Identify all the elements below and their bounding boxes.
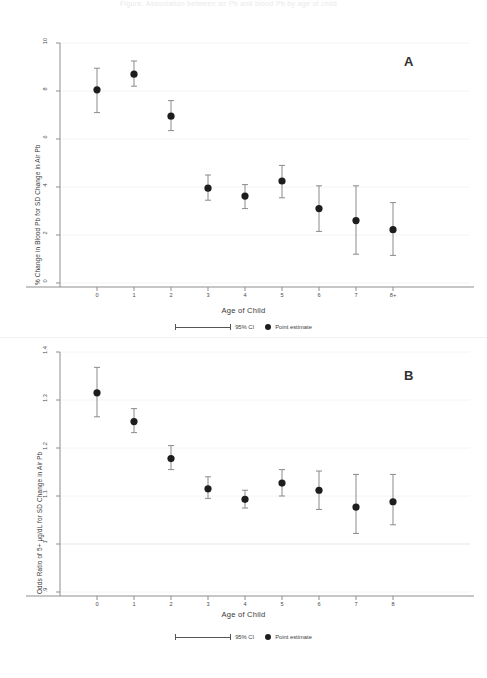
x-tick-label: 7: [344, 292, 368, 298]
filled-circle-icon: [265, 634, 271, 640]
point-estimate-marker: [315, 205, 322, 212]
x-tick-label: 2: [159, 601, 183, 607]
x-tick-label: 3: [196, 292, 220, 298]
data-point-group: [352, 474, 359, 533]
point-estimate-marker: [93, 86, 100, 93]
panel-a-plot: [0, 0, 487, 340]
x-tick-label: 4: [233, 292, 257, 298]
y-tick-label: 1.1: [42, 487, 48, 501]
y-tick-label: 1.3: [42, 391, 48, 405]
data-point-group: [389, 203, 396, 256]
legend-label-point: Point estimate: [275, 324, 312, 330]
panel-b-y-axis-title: Odds Ratio of 5+ µg/dL for SD Change in …: [36, 452, 43, 594]
data-point-group: [315, 471, 322, 509]
error-bar-icon: [175, 634, 231, 641]
y-tick-label: 0: [42, 274, 48, 288]
y-tick-label: .9: [42, 583, 48, 597]
data-point-group: [352, 186, 359, 254]
panel-b-x-axis-title: Age of Child: [0, 610, 487, 619]
data-point-group: [241, 490, 248, 508]
x-tick-label: 0: [85, 292, 109, 298]
y-tick-label: 4: [42, 178, 48, 192]
point-estimate-marker: [278, 479, 285, 486]
x-tick-label: 6: [307, 292, 331, 298]
panel-a-y-axis-title: % Change in Blood Pb for SD Change in Ai…: [34, 144, 41, 285]
panel-b-legend: 95% CI Point estimate: [0, 630, 487, 644]
panel-b-plot: [0, 338, 487, 678]
point-estimate-marker: [241, 496, 248, 503]
y-tick-label: 1: [42, 535, 48, 549]
error-bar-icon: [175, 324, 231, 331]
panel-b-letter: B: [404, 368, 413, 383]
x-tick-label: 1: [122, 601, 146, 607]
data-point-group: [93, 68, 100, 112]
panel-a-letter: A: [404, 54, 413, 69]
data-point-group: [93, 367, 100, 416]
x-tick-label: 5: [270, 292, 294, 298]
point-estimate-marker: [130, 71, 137, 78]
legend-entry-ci: 95% CI: [175, 324, 254, 331]
y-tick-label: 2: [42, 226, 48, 240]
panel-a-x-axis-title: Age of Child: [0, 306, 487, 315]
point-estimate-marker: [315, 487, 322, 494]
x-tick-label: 6: [307, 601, 331, 607]
point-estimate-marker: [352, 503, 359, 510]
y-tick-label: 10: [42, 34, 48, 48]
data-point-group: [167, 446, 174, 470]
panel-a: % Change in Blood Pb for SD Change in Ai…: [0, 0, 487, 340]
point-estimate-marker: [352, 217, 359, 224]
x-tick-label: 5: [270, 601, 294, 607]
point-estimate-marker: [204, 485, 211, 492]
data-point-group: [278, 165, 285, 197]
x-tick-label: 0: [85, 601, 109, 607]
point-estimate-marker: [241, 193, 248, 200]
point-estimate-marker: [278, 177, 285, 184]
legend-label-ci: 95% CI: [235, 324, 254, 330]
point-estimate-marker: [130, 418, 137, 425]
data-point-group: [315, 186, 322, 232]
data-point-group: [204, 175, 211, 200]
data-point-group: [389, 474, 396, 524]
y-tick-label: 6: [42, 130, 48, 144]
legend-entry-ci: 95% CI: [175, 634, 254, 641]
point-estimate-marker: [167, 113, 174, 120]
x-tick-label: 7: [344, 601, 368, 607]
point-estimate-marker: [167, 455, 174, 462]
point-estimate-marker: [389, 226, 396, 233]
y-tick-label: 1.4: [42, 343, 48, 357]
x-tick-label: 3: [196, 601, 220, 607]
data-point-group: [167, 101, 174, 131]
x-tick-label: 8+: [381, 292, 405, 298]
figure-container: Figure. Association between air Pb and b…: [0, 0, 487, 678]
point-estimate-marker: [93, 389, 100, 396]
data-point-group: [241, 185, 248, 209]
x-tick-label: 2: [159, 292, 183, 298]
y-tick-label: 8: [42, 82, 48, 96]
legend-entry-point: Point estimate: [265, 324, 312, 330]
panel-b: Odds Ratio of 5+ µg/dL for SD Change in …: [0, 338, 487, 678]
data-point-group: [130, 409, 137, 433]
filled-circle-icon: [265, 324, 271, 330]
y-tick-label: 1.2: [42, 439, 48, 453]
x-tick-label: 1: [122, 292, 146, 298]
legend-label-ci: 95% CI: [235, 634, 254, 640]
point-estimate-marker: [389, 498, 396, 505]
legend-entry-point: Point estimate: [265, 634, 312, 640]
x-tick-label: 4: [233, 601, 257, 607]
panel-a-legend: 95% CI Point estimate: [0, 320, 487, 334]
x-tick-label: 8: [381, 601, 405, 607]
legend-label-point: Point estimate: [275, 634, 312, 640]
point-estimate-marker: [204, 185, 211, 192]
data-point-group: [278, 470, 285, 496]
data-point-group: [130, 61, 137, 86]
data-point-group: [204, 477, 211, 499]
